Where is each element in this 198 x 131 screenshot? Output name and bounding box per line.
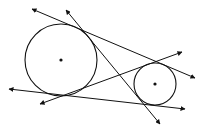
small-circle (134, 63, 176, 105)
tangent-lines-diagram (0, 0, 198, 131)
internal-tangent-1 (66, 10, 160, 124)
external-tangent-bottom (9, 89, 185, 109)
small-circle-center-point (153, 82, 156, 85)
large-circle-center-point (59, 58, 62, 61)
tangent-lines-layer (9, 9, 195, 124)
circles-layer (25, 24, 176, 105)
